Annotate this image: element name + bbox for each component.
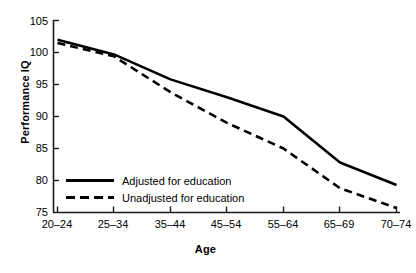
y-axis-ticks: [54, 21, 60, 181]
legend-group: [66, 181, 114, 198]
series-line-adjusted: [58, 40, 397, 185]
axes-group: [53, 20, 400, 213]
x-axis-ticks: [58, 207, 397, 213]
series-line-unadjusted: [58, 43, 397, 208]
